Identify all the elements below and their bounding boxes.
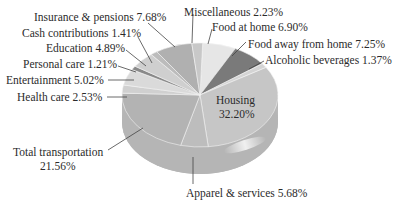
label-insurance: Insurance & pensions 7.68% <box>34 11 166 24</box>
label-miscellaneous: Miscellaneous 2.23% <box>184 6 283 19</box>
label-transportation-name: Total transportation <box>13 146 103 159</box>
label-apparel: Apparel & services 5.68% <box>186 187 307 200</box>
label-health-care: Health care 2.53% <box>17 91 102 104</box>
label-food-at-home: Food at home 6.90% <box>212 21 308 34</box>
label-food-away: Food away from home 7.25% <box>248 38 385 51</box>
label-housing-value: 32.20% <box>219 108 254 121</box>
label-alcoholic-beverages: Alcoholic beverages 1.37% <box>265 54 392 67</box>
label-personal-care: Personal care 1.21% <box>23 58 117 71</box>
label-housing-name: Housing <box>216 94 255 107</box>
label-entertainment: Entertainment 5.02% <box>6 74 104 87</box>
label-transportation-value: 21.56% <box>40 160 75 173</box>
label-education: Education 4.89% <box>46 42 125 55</box>
label-cash-contributions: Cash contributions 1.41% <box>22 27 141 40</box>
